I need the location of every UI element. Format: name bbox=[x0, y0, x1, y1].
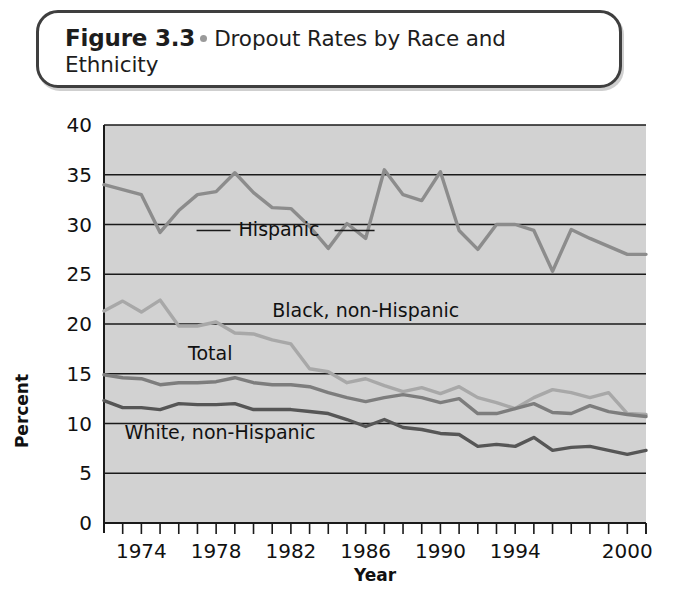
series-label-white-non-hispanic: White, non-Hispanic bbox=[125, 421, 316, 443]
y-tick-label-40: 40 bbox=[67, 113, 92, 137]
x-tick-label-1982: 1982 bbox=[265, 539, 316, 563]
y-tick-label-30: 30 bbox=[67, 213, 92, 237]
series-label-black-non-hispanic: Black, non-Hispanic bbox=[272, 299, 459, 321]
bullet-dot-icon bbox=[200, 35, 207, 42]
x-tick-label-1990: 1990 bbox=[415, 539, 466, 563]
figure-caption-text: Figure 3.3Dropout Rates by Race and Ethn… bbox=[39, 13, 619, 78]
series-label-total: Total bbox=[187, 342, 232, 364]
x-axis-title: Year bbox=[353, 565, 397, 585]
x-axis-tick-labels: 1974197819821986199019942000 bbox=[116, 539, 653, 563]
series-label-hispanic: Hispanic bbox=[239, 218, 320, 240]
x-tick-label-2000: 2000 bbox=[602, 539, 653, 563]
x-tick-label-1986: 1986 bbox=[340, 539, 391, 563]
x-tick-label-1994: 1994 bbox=[490, 539, 541, 563]
x-tick-label-1974: 1974 bbox=[116, 539, 167, 563]
y-tick-label-10: 10 bbox=[67, 412, 92, 436]
x-axis-tick-marks bbox=[123, 523, 646, 534]
y-tick-label-0: 0 bbox=[79, 511, 92, 535]
figure-number-label: Figure 3.3 bbox=[65, 25, 195, 51]
y-tick-label-25: 25 bbox=[67, 262, 92, 286]
y-axis-tick-labels: 0510152025303540 bbox=[67, 113, 92, 535]
y-tick-label-5: 5 bbox=[79, 461, 92, 485]
figure-caption-box: Figure 3.3Dropout Rates by Race and Ethn… bbox=[36, 10, 622, 88]
chart-canvas: 0510152025303540 19741978198219861990199… bbox=[0, 96, 691, 606]
y-tick-label-35: 35 bbox=[67, 163, 92, 187]
x-tick-label-1978: 1978 bbox=[191, 539, 242, 563]
dropout-rates-line-chart: 0510152025303540 19741978198219861990199… bbox=[0, 96, 691, 606]
y-tick-label-20: 20 bbox=[67, 312, 92, 336]
y-axis-title: Percent bbox=[12, 374, 32, 448]
y-tick-label-15: 15 bbox=[67, 362, 92, 386]
